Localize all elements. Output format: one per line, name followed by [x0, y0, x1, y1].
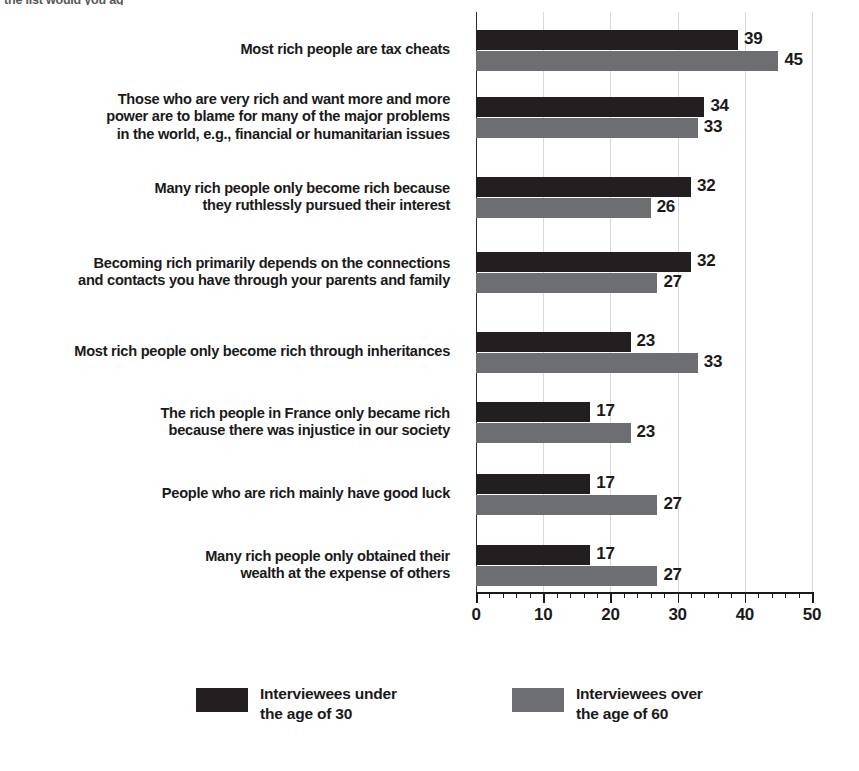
tick-minor-44 — [772, 592, 773, 598]
x-tick-label: 50 — [803, 605, 821, 625]
legend-item: Interviewees under the age of 30 — [196, 684, 397, 724]
bar-value-label: 27 — [663, 494, 681, 514]
gridline-50 — [812, 12, 813, 592]
category-label-line: and contacts you have through your paren… — [0, 272, 450, 290]
bar-over — [476, 198, 651, 218]
category-label: Most rich people only become rich throug… — [0, 343, 450, 361]
bar-value-label: 17 — [596, 401, 614, 421]
bar-over — [476, 495, 657, 515]
legend-label: Interviewees over the age of 60 — [576, 684, 703, 724]
category-label: Most rich people are tax cheats — [0, 41, 450, 59]
bar-value-label: 26 — [657, 197, 675, 217]
bar-group: 1727 — [476, 545, 812, 595]
x-axis: 01020304050 — [476, 592, 812, 626]
category-label-line: Most rich people are tax cheats — [0, 41, 450, 59]
category-label-list: Most rich people are tax cheatsThose who… — [0, 12, 462, 592]
bar-value-label: 32 — [697, 251, 715, 271]
tick-minor-14 — [570, 592, 571, 598]
legend-label: Interviewees under the age of 30 — [260, 684, 397, 724]
tick-minor-4 — [503, 592, 504, 598]
bar-over — [476, 273, 657, 293]
category-label-line: power are to blame for many of the major… — [0, 108, 450, 126]
x-tick-label: 10 — [534, 605, 552, 625]
bar-under — [476, 402, 590, 422]
category-label: Becoming rich primarily depends on the c… — [0, 255, 450, 290]
tick-minor-42 — [758, 592, 759, 598]
bar-under — [476, 97, 704, 117]
tick-minor-8 — [530, 592, 531, 598]
bar-under — [476, 332, 631, 352]
category-label-line: Many rich people only become rich becaus… — [0, 180, 450, 198]
tick-major-20 — [610, 592, 612, 603]
tick-major-30 — [678, 592, 680, 603]
bar-over — [476, 118, 698, 138]
bar-group: 1723 — [476, 402, 812, 452]
bar-under — [476, 177, 691, 197]
bar-value-label: 23 — [637, 422, 655, 442]
tick-minor-34 — [704, 592, 705, 598]
category-label-line: because there was injustice in our socie… — [0, 422, 450, 440]
bar-under — [476, 474, 590, 494]
bar-value-label: 32 — [697, 176, 715, 196]
category-label-line: People who are rich mainly have good luc… — [0, 485, 450, 503]
bar-under — [476, 30, 738, 50]
tick-minor-32 — [691, 592, 692, 598]
category-label: People who are rich mainly have good luc… — [0, 485, 450, 503]
bar-value-label: 17 — [596, 544, 614, 564]
tick-major-0 — [476, 592, 478, 603]
tick-minor-48 — [799, 592, 800, 598]
bar-over — [476, 566, 657, 586]
x-axis-line — [476, 592, 812, 594]
bar-group: 3226 — [476, 177, 812, 227]
bar-over — [476, 423, 631, 443]
category-label: Many rich people only become rich becaus… — [0, 180, 450, 215]
bar-value-label: 17 — [596, 473, 614, 493]
bar-group: 2333 — [476, 332, 812, 382]
tick-major-10 — [543, 592, 545, 603]
bar-value-label: 27 — [663, 272, 681, 292]
tick-minor-28 — [664, 592, 665, 598]
tick-minor-46 — [785, 592, 786, 598]
bar-rows: 39453433322632272333172317271727 — [476, 12, 812, 592]
bar-value-label: 33 — [704, 352, 722, 372]
plot-area: 39453433322632272333172317271727 — [476, 12, 812, 592]
bar-over — [476, 353, 698, 373]
tick-minor-18 — [597, 592, 598, 598]
tick-minor-26 — [651, 592, 652, 598]
tick-minor-24 — [637, 592, 638, 598]
bar-value-label: 45 — [784, 50, 802, 70]
category-label-line: Those who are very rich and want more an… — [0, 91, 450, 109]
category-label-line: in the world, e.g., financial or humanit… — [0, 126, 450, 144]
bar-over — [476, 51, 778, 71]
bar-value-label: 34 — [710, 96, 728, 116]
tick-minor-16 — [584, 592, 585, 598]
bar-group: 1727 — [476, 474, 812, 524]
x-tick-label: 20 — [601, 605, 619, 625]
tick-minor-22 — [624, 592, 625, 598]
bar-value-label: 23 — [637, 331, 655, 351]
tick-minor-38 — [731, 592, 732, 598]
x-tick-label: 40 — [736, 605, 754, 625]
x-tick-label: 30 — [668, 605, 686, 625]
tick-minor-6 — [516, 592, 517, 598]
grouped-bar-chart: Most rich people are tax cheatsThose who… — [0, 0, 859, 625]
bar-value-label: 39 — [744, 29, 762, 49]
category-label-line: Many rich people only obtained their — [0, 548, 450, 566]
category-label-line: The rich people in France only became ri… — [0, 405, 450, 423]
bar-value-label: 33 — [704, 117, 722, 137]
legend-item: Interviewees over the age of 60 — [512, 684, 703, 724]
category-label: Those who are very rich and want more an… — [0, 91, 450, 144]
x-tick-label: 0 — [471, 605, 480, 625]
bar-value-label: 27 — [663, 565, 681, 585]
tick-major-40 — [745, 592, 747, 603]
bar-group: 3227 — [476, 252, 812, 302]
tick-minor-12 — [557, 592, 558, 598]
category-label-line: Most rich people only become rich throug… — [0, 343, 450, 361]
chart-legend: Interviewees under the age of 30Intervie… — [0, 684, 859, 750]
category-label-line: they ruthlessly pursued their interest — [0, 197, 450, 215]
tick-minor-2 — [489, 592, 490, 598]
bar-group: 3433 — [476, 97, 812, 147]
bar-under — [476, 252, 691, 272]
category-label-line: wealth at the expense of others — [0, 565, 450, 583]
category-label: The rich people in France only became ri… — [0, 405, 450, 440]
